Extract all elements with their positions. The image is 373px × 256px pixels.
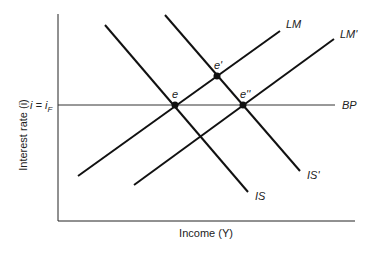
label-lm: LM (286, 18, 302, 30)
label-lm-prime: LM' (340, 28, 358, 40)
point-e (172, 102, 179, 109)
ytick-label: i = iF (30, 99, 53, 114)
y-axis-title: Interest rate (i) (17, 99, 29, 171)
label-e-double-prime: e'' (240, 88, 251, 100)
is-curve (105, 25, 248, 192)
label-is-prime: IS' (307, 169, 320, 181)
label-is: IS (255, 190, 266, 202)
point-e-double-prime (240, 102, 247, 109)
label-e: e (172, 88, 178, 100)
is-lm-bp-diagram: LM LM' IS IS' BP e e' e'' i = iF Interes… (0, 0, 373, 256)
label-bp: BP (342, 99, 357, 111)
label-e-prime: e' (214, 59, 223, 71)
point-e-prime (214, 73, 221, 80)
x-axis-title: Income (Y) (179, 227, 233, 239)
lm-curve (78, 31, 280, 176)
lm-prime-curve (134, 39, 334, 185)
